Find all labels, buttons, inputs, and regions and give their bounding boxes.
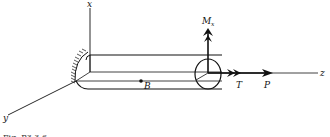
fixed-support-wall <box>71 49 88 83</box>
point-b-marker <box>139 79 143 83</box>
y-axis <box>8 81 76 115</box>
z-axis-label: z <box>319 68 325 78</box>
x-axis-label: x <box>87 0 92 9</box>
torque-t-label: T <box>236 80 243 90</box>
torque-t-arrow <box>208 69 241 77</box>
cantilever-shaft-diagram: x y B z M <box>0 0 330 137</box>
moment-mx-arrow <box>203 28 213 73</box>
moment-mx-subscript: x <box>211 20 215 27</box>
force-p-label: P <box>263 80 271 90</box>
point-b-label: B <box>143 81 151 91</box>
y-axis-label: y <box>2 113 9 123</box>
figure-caption: Fig. P3.3.6 <box>3 133 47 137</box>
force-p-arrow <box>240 69 273 77</box>
